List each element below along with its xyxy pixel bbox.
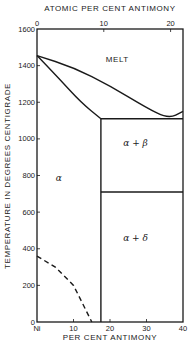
x-tick-label: 40 xyxy=(179,324,187,333)
x-tick-label: Ni xyxy=(33,324,40,333)
magnetic-transformation-line xyxy=(37,256,92,322)
phase-region-labels: MELTαα + βα + δ xyxy=(56,55,148,243)
x-tick-label: 20 xyxy=(106,324,114,333)
y-tick-label: 400 xyxy=(22,244,35,253)
top-axis-title: ATOMIC PER CENT ANTIMONY xyxy=(44,4,175,13)
y-tick-label: 1200 xyxy=(18,98,35,107)
top-tick-label: 10 xyxy=(100,19,108,28)
x-axis-ticks: Ni10203040 xyxy=(33,319,187,333)
y-tick-label: 200 xyxy=(22,281,35,290)
y-axis-title: TEMPERATURE IN DEGREES CENTIGRADE xyxy=(3,83,12,269)
y-tick-label: 800 xyxy=(22,171,35,180)
top-axis-ticks: 01020 xyxy=(35,19,175,32)
x-tick-label: 10 xyxy=(69,324,77,333)
y-tick-label: 600 xyxy=(22,208,35,217)
y-tick-label: 1000 xyxy=(18,134,35,143)
region-label: α xyxy=(56,173,62,183)
phase-boundaries xyxy=(37,56,183,322)
solidus-line xyxy=(37,56,101,119)
phase-diagram: 02004006008001000120014001600 Ni10203040… xyxy=(0,0,196,344)
region-label: MELT xyxy=(106,55,129,64)
x-axis-title: PER CENT ANTIMONY xyxy=(63,333,158,342)
region-label: α + δ xyxy=(123,233,148,243)
top-tick-label: 0 xyxy=(35,19,39,28)
top-tick-label: 20 xyxy=(166,19,174,28)
liquidus-line xyxy=(37,56,183,117)
x-tick-label: 30 xyxy=(142,324,150,333)
region-label: α + β xyxy=(123,138,148,148)
y-tick-label: 1600 xyxy=(18,25,35,34)
y-tick-label: 1400 xyxy=(18,61,35,70)
